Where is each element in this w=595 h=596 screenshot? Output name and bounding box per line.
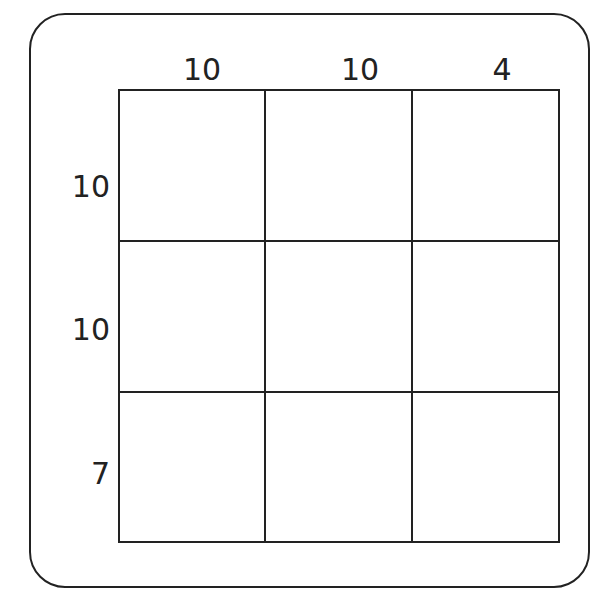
row-sum-2: 10 — [60, 312, 110, 348]
row-sum-3: 7 — [60, 456, 110, 492]
row-sum-1: 10 — [60, 169, 110, 205]
grid-cell[interactable] — [120, 242, 266, 393]
column-sum-3: 4 — [472, 52, 532, 88]
grid-cell[interactable] — [413, 91, 558, 242]
grid-cell[interactable] — [120, 91, 266, 242]
grid-cell[interactable] — [266, 242, 413, 393]
grid-cell[interactable] — [266, 393, 413, 541]
grid-cell[interactable] — [266, 91, 413, 242]
column-sum-2: 10 — [330, 52, 390, 88]
grid-cell[interactable] — [413, 242, 558, 393]
grid-cell[interactable] — [120, 393, 266, 541]
puzzle-grid — [118, 89, 560, 543]
grid-cell[interactable] — [413, 393, 558, 541]
column-sum-1: 10 — [172, 52, 232, 88]
